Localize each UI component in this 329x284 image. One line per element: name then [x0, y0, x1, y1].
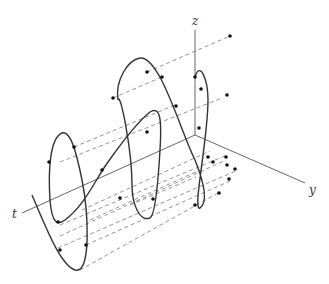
axes	[22, 30, 305, 213]
helix-curve	[32, 58, 208, 270]
z-axis-label: z	[191, 14, 199, 28]
y-axis	[195, 135, 305, 183]
helix-projection-diagram: z y t	[0, 0, 329, 284]
y-axis-label: y	[308, 183, 316, 197]
t-axis	[22, 135, 195, 213]
t-axis-label: t	[12, 207, 17, 221]
sample-points	[47, 34, 237, 252]
